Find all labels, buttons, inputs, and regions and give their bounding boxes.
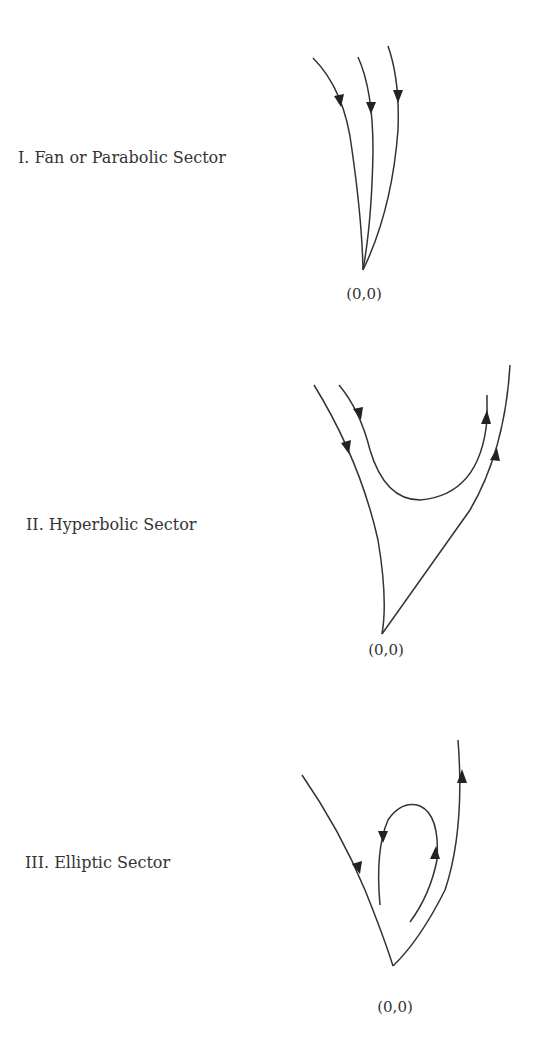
arrow-down-icon: [378, 831, 388, 843]
arrow-up-icon: [430, 846, 440, 859]
arrow-down-icon: [366, 102, 376, 114]
arrow-up-icon: [457, 769, 467, 783]
hyperbolic-sector: [314, 365, 510, 634]
arrow-down-icon: [393, 90, 403, 103]
phase-portrait-diagram: [0, 0, 535, 1060]
fan-sector: [313, 46, 403, 270]
elliptic-sector: [302, 740, 467, 966]
arrow-up-icon: [481, 410, 491, 424]
arrow-down-icon: [353, 407, 363, 420]
